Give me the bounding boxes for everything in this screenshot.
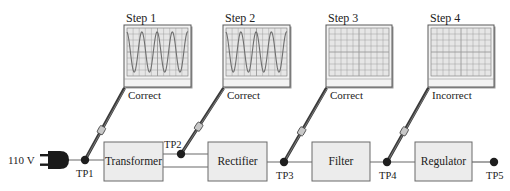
step-3-result: Correct bbox=[330, 90, 363, 101]
oscilloscopes bbox=[124, 25, 496, 89]
block-label-transformer: Transformer bbox=[104, 156, 163, 168]
step-4-result: Incorrect bbox=[432, 90, 472, 101]
plug-icon bbox=[40, 151, 69, 169]
step-2-title: Step 2 bbox=[225, 12, 255, 24]
plug-body bbox=[48, 151, 69, 169]
test-point-label-tp5: TP5 bbox=[486, 171, 504, 182]
step-2-result: Correct bbox=[227, 90, 260, 101]
test-point-label-tp1: TP1 bbox=[76, 169, 94, 180]
oscilloscope-step-1 bbox=[124, 25, 193, 89]
block-label-regulator: Regulator bbox=[415, 156, 472, 168]
oscilloscope-step-3 bbox=[326, 25, 394, 89]
block-label-rectifier: Rectifier bbox=[208, 156, 267, 168]
step-1-result: Correct bbox=[128, 90, 161, 101]
test-point-label-tp3: TP3 bbox=[276, 171, 294, 182]
oscilloscope-step-4 bbox=[428, 25, 496, 89]
power-supply-diagram: 110 V Transformer Rectifier Filter Regul… bbox=[0, 0, 510, 191]
test-point-label-tp2: TP2 bbox=[164, 140, 182, 151]
step-4-title: Step 4 bbox=[430, 12, 460, 24]
source-voltage-label: 110 V bbox=[8, 155, 35, 166]
test-point-tp4 bbox=[383, 158, 391, 166]
plug-prong bbox=[40, 154, 49, 156]
plug-prong bbox=[40, 164, 49, 166]
test-point-label-tp4: TP4 bbox=[379, 171, 397, 182]
test-point-tp3 bbox=[280, 158, 288, 166]
oscilloscope-step-2 bbox=[223, 25, 292, 89]
test-point-tp2 bbox=[177, 150, 185, 158]
test-point-tp5 bbox=[490, 158, 498, 166]
block-label-filter: Filter bbox=[312, 156, 370, 168]
test-point-tp1 bbox=[81, 156, 89, 164]
step-3-title: Step 3 bbox=[328, 12, 358, 24]
step-1-title: Step 1 bbox=[126, 12, 156, 24]
